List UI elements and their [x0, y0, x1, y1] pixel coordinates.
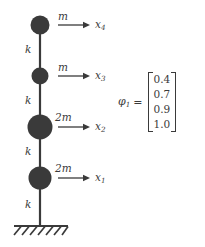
spring-label-2: k [25, 146, 31, 157]
equals-sign: = [133, 96, 147, 109]
dof-label-4: x4 [95, 19, 106, 31]
mass-label-4: m [58, 11, 68, 22]
phi-subscript: 1 [126, 100, 131, 109]
phi-symbol-label: φ1 [118, 95, 133, 109]
vector-value-1: 0.4 [154, 72, 171, 87]
displacement-arrow-1 [58, 175, 90, 181]
vector-value-2: 0.7 [154, 87, 171, 102]
displacement-arrow-2 [58, 124, 90, 130]
dof-label-3-subscript: 3 [101, 74, 106, 83]
spring-label-4: k [25, 44, 31, 55]
vector-value-4: 1.0 [154, 117, 171, 132]
phi-symbol: φ [118, 95, 126, 108]
dof-label-2: x2 [95, 121, 106, 133]
mass-node-4 [31, 16, 50, 35]
ground-support [14, 226, 68, 235]
mass-node-3 [32, 68, 49, 85]
spring-label-1: k [25, 199, 31, 210]
mass-label-1: 2m [55, 163, 72, 174]
dof-label-1-subscript: 1 [101, 176, 106, 185]
mass-label-2: 2m [55, 112, 72, 123]
dof-label-3: x3 [95, 70, 106, 82]
mass-node-2 [28, 115, 53, 140]
spring-label-3: k [25, 95, 31, 106]
vector-values: 0.4 0.7 0.9 1.0 [153, 72, 172, 132]
mass-label-3: m [58, 62, 68, 73]
displacement-arrow-4 [58, 22, 90, 28]
ground-hatching [14, 227, 68, 236]
dof-label-2-subscript: 2 [101, 125, 106, 134]
bracket-right-icon [171, 72, 176, 132]
vector-value-3: 0.9 [154, 102, 171, 117]
dof-label-1: x1 [95, 172, 106, 184]
mass-node-1 [29, 167, 52, 190]
displacement-arrow-3 [58, 73, 90, 79]
mode-shape-vector: φ1 = 0.4 0.7 0.9 1.0 [118, 66, 176, 138]
figure-root: m m 2m 2m k k k k x4 x3 x2 x1 φ1 = 0.4 0… [0, 0, 205, 247]
vector-matrix: 0.4 0.7 0.9 1.0 [148, 72, 177, 132]
dof-label-4-subscript: 4 [101, 23, 106, 32]
